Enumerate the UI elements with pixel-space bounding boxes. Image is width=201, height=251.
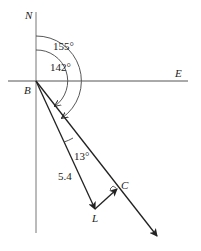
angle-155-label: 155°: [53, 40, 74, 52]
point-L-label: L: [91, 212, 98, 224]
length-5-4-label: 5.4: [58, 170, 72, 182]
origin-label-B: B: [24, 84, 31, 96]
diagram-svg: N E B 155° 142° 13° 5.4 C L: [0, 0, 201, 251]
east-label: E: [174, 67, 182, 79]
vector-LC: [95, 189, 117, 209]
angle-13-label: 13°: [74, 150, 89, 162]
north-label: N: [24, 9, 33, 21]
bearing-diagram: N E B 155° 142° 13° 5.4 C L: [0, 0, 201, 251]
arc-13: [64, 138, 73, 142]
angle-142-label: 142°: [50, 61, 71, 73]
point-C-label: C: [121, 179, 129, 191]
arc-142: [36, 50, 68, 106]
